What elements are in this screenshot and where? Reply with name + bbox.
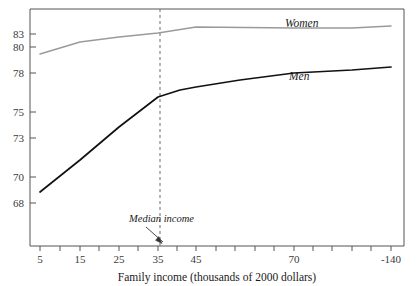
annotation-arrow-icon — [146, 227, 163, 244]
series-line-men — [40, 67, 391, 192]
y-label-78: 78 — [13, 67, 25, 79]
series-label-men: Men — [288, 70, 310, 82]
series-label-women: Women — [285, 17, 319, 29]
y-label-68: 68 — [13, 197, 25, 209]
x-label-25: 25 — [114, 253, 126, 265]
x-axis-tick-labels: 5 15 25 35 45 70 -140 — [37, 253, 401, 265]
y-label-75: 75 — [13, 106, 25, 118]
y-label-83: 83 — [13, 28, 25, 40]
x-label-45: 45 — [191, 253, 203, 265]
x-label-140: -140 — [381, 253, 402, 265]
y-axis-tick-labels: 68 70 73 75 78 80 83 — [13, 28, 25, 209]
x-label-70: 70 — [289, 253, 301, 265]
y-label-80: 80 — [13, 41, 25, 53]
x-axis-title: Family income (thousands of 2000 dollars… — [118, 271, 317, 284]
y-label-70: 70 — [13, 171, 25, 183]
x-label-15: 15 — [75, 253, 87, 265]
plot-frame — [30, 9, 404, 246]
series-line-women — [40, 26, 391, 54]
x-axis-ticks — [40, 246, 391, 251]
chart-figure: 68 70 73 75 78 80 83 — [0, 0, 419, 286]
x-label-5: 5 — [37, 253, 43, 265]
line-chart: 68 70 73 75 78 80 83 — [0, 0, 419, 286]
y-axis-ticks — [30, 34, 36, 203]
annotation-median-income-label: Median income — [128, 213, 194, 224]
y-label-73: 73 — [13, 132, 25, 144]
x-label-35: 35 — [153, 253, 165, 265]
